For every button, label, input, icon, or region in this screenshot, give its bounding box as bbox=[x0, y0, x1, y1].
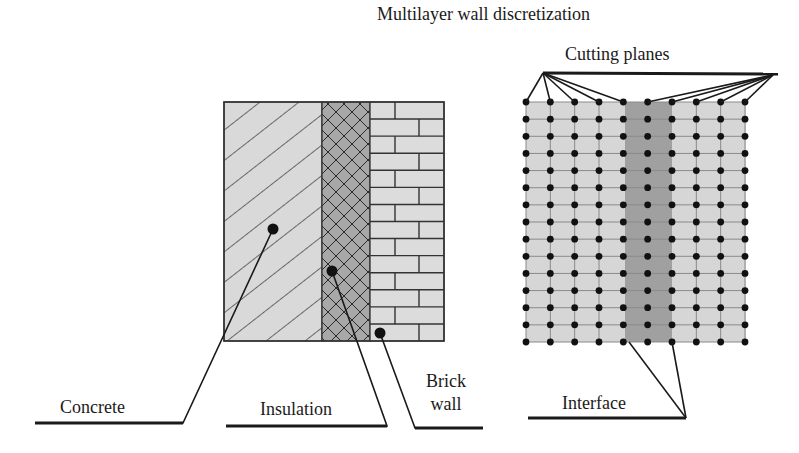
multilayer-wall-figure: Multilayer wall discretization Cutting p… bbox=[0, 0, 799, 453]
mesh-node bbox=[547, 270, 554, 277]
mesh-node bbox=[620, 339, 627, 346]
mesh-node bbox=[693, 116, 700, 123]
mesh-node bbox=[571, 133, 578, 140]
mesh-node bbox=[620, 270, 627, 277]
mesh-node bbox=[669, 116, 676, 123]
mesh-node bbox=[596, 167, 603, 174]
mesh-node bbox=[571, 201, 578, 208]
mesh-node bbox=[596, 133, 603, 140]
insulation-layer bbox=[322, 102, 370, 341]
cutting-plane-leaders bbox=[526, 73, 778, 102]
mesh-node bbox=[693, 287, 700, 294]
interface-label: Interface bbox=[562, 393, 626, 414]
mesh-node bbox=[596, 287, 603, 294]
mesh-node bbox=[571, 287, 578, 294]
mesh-node bbox=[523, 253, 530, 260]
mesh-node bbox=[717, 236, 724, 243]
mesh-node bbox=[669, 219, 676, 226]
mesh-node bbox=[620, 184, 627, 191]
mesh-node bbox=[644, 287, 651, 294]
cutting-plane-leader bbox=[721, 75, 773, 102]
mesh-node bbox=[644, 339, 651, 346]
mesh-node bbox=[644, 116, 651, 123]
mesh-node bbox=[644, 150, 651, 157]
cutting-planes-label: Cutting planes bbox=[565, 44, 670, 65]
cutting-plane-leader bbox=[648, 75, 773, 102]
mesh-node bbox=[571, 270, 578, 277]
mesh-node bbox=[596, 270, 603, 277]
mesh-node bbox=[717, 184, 724, 191]
mesh-node bbox=[669, 304, 676, 311]
mesh-node bbox=[596, 321, 603, 328]
mesh-node bbox=[547, 150, 554, 157]
mesh-node bbox=[669, 321, 676, 328]
brick-wall-label: Brick wall bbox=[426, 370, 466, 416]
mesh-node bbox=[742, 167, 749, 174]
mesh-node bbox=[693, 167, 700, 174]
mesh-node bbox=[620, 236, 627, 243]
brick-label-line1: Brick bbox=[426, 370, 466, 393]
mesh-node bbox=[693, 133, 700, 140]
mesh-node bbox=[523, 304, 530, 311]
mesh-node bbox=[523, 133, 530, 140]
mesh-node bbox=[644, 133, 651, 140]
mesh-node bbox=[620, 253, 627, 260]
mesh-node bbox=[547, 339, 554, 346]
mesh-node bbox=[547, 287, 554, 294]
mesh-node bbox=[669, 150, 676, 157]
mesh-node bbox=[571, 236, 578, 243]
mesh-node bbox=[693, 321, 700, 328]
mesh-node bbox=[693, 304, 700, 311]
mesh-node bbox=[596, 116, 603, 123]
mesh-node bbox=[742, 150, 749, 157]
mesh-node bbox=[523, 201, 530, 208]
mesh-node bbox=[571, 253, 578, 260]
mesh-node bbox=[693, 150, 700, 157]
mesh-node bbox=[523, 236, 530, 243]
mesh-node bbox=[669, 133, 676, 140]
mesh-node bbox=[547, 201, 554, 208]
mesh-node bbox=[669, 287, 676, 294]
mesh-node bbox=[717, 133, 724, 140]
concrete-marker bbox=[268, 224, 279, 235]
mesh-node bbox=[693, 219, 700, 226]
mesh-node bbox=[523, 339, 530, 346]
mesh-node bbox=[596, 184, 603, 191]
mesh-node bbox=[742, 253, 749, 260]
insulation-label: Insulation bbox=[260, 399, 332, 420]
mesh-node bbox=[644, 236, 651, 243]
mesh-node bbox=[669, 201, 676, 208]
figure-title: Multilayer wall discretization bbox=[0, 4, 799, 25]
brick-label-line2: wall bbox=[426, 393, 466, 416]
mesh-node bbox=[693, 339, 700, 346]
mesh-node bbox=[717, 270, 724, 277]
mesh-node bbox=[547, 253, 554, 260]
mesh-node bbox=[717, 287, 724, 294]
mesh-node bbox=[742, 339, 749, 346]
diagram-canvas bbox=[0, 0, 799, 453]
mesh-node bbox=[523, 287, 530, 294]
mesh-node bbox=[571, 219, 578, 226]
mesh-node bbox=[571, 150, 578, 157]
mesh-node bbox=[717, 150, 724, 157]
mesh-node bbox=[547, 184, 554, 191]
mesh-node bbox=[596, 236, 603, 243]
mesh-node bbox=[620, 219, 627, 226]
mesh-node bbox=[620, 150, 627, 157]
brick-layer bbox=[370, 102, 444, 341]
mesh-node bbox=[669, 270, 676, 277]
mesh-node bbox=[547, 116, 554, 123]
mesh-node bbox=[620, 116, 627, 123]
mesh-node bbox=[742, 236, 749, 243]
mesh-node bbox=[717, 304, 724, 311]
mesh-node bbox=[547, 167, 554, 174]
mesh-node bbox=[547, 133, 554, 140]
mesh-node bbox=[669, 253, 676, 260]
mesh-node bbox=[742, 201, 749, 208]
mesh-node bbox=[620, 133, 627, 140]
mesh-node bbox=[693, 236, 700, 243]
mesh-node bbox=[523, 219, 530, 226]
mesh-node bbox=[742, 116, 749, 123]
mesh-node bbox=[620, 321, 627, 328]
mesh-node bbox=[717, 339, 724, 346]
